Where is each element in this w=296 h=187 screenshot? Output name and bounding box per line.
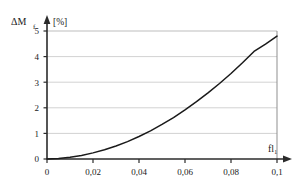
y-tick-label-3: 3 <box>35 78 40 88</box>
y-axis-label: ΔM f <box>11 16 36 31</box>
x-axis-arrow-icon <box>283 156 292 163</box>
chart-plot: 5 4 3 2 1 0 0 0,02 0,04 0,06 0,08 0,1 ΔM… <box>0 0 296 187</box>
x-tick-label-5: 0,1 <box>271 167 282 177</box>
x-tick-label-1: 0,02 <box>85 167 101 177</box>
y-tick-label-4: 4 <box>35 52 40 62</box>
y-axis-unit-label: [%] <box>53 17 67 27</box>
x-tick-label-2: 0,04 <box>131 167 147 177</box>
x-axis <box>47 156 292 163</box>
y-axis-label-text: ΔM <box>11 16 26 27</box>
y-axis-arrow-icon <box>44 15 51 24</box>
x-axis-label: fl₁ <box>268 143 278 154</box>
y-tick-label-0: 0 <box>35 154 40 164</box>
chart-container: 5 4 3 2 1 0 0 0,02 0,04 0,06 0,08 0,1 ΔM… <box>0 0 296 187</box>
y-axis <box>44 15 51 159</box>
gridlines <box>47 31 277 133</box>
x-tick-label-3: 0,06 <box>177 167 193 177</box>
x-tick-label-4: 0,08 <box>223 167 239 177</box>
data-series-curve <box>47 36 277 159</box>
y-tick-label-2: 2 <box>35 103 40 113</box>
x-tick-label-0: 0 <box>45 167 50 177</box>
y-tick-label-1: 1 <box>35 129 40 139</box>
